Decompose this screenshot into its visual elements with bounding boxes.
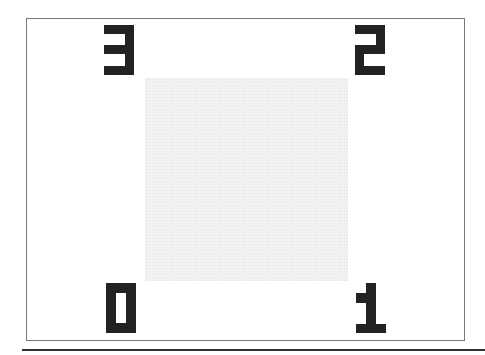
bottom-separator-line [22, 349, 485, 351]
digit-two-glyph [355, 25, 385, 75]
center-square [145, 78, 348, 281]
corner-label-top-left: 3 [104, 25, 134, 75]
digit-zero-glyph [106, 283, 136, 333]
corner-label-top-right: 2 [355, 25, 385, 75]
digit-three-glyph [104, 25, 134, 75]
digit-one-glyph [356, 283, 386, 333]
corner-label-bottom-left: 0 [106, 283, 136, 333]
corner-label-bottom-right: 1 [356, 283, 386, 333]
